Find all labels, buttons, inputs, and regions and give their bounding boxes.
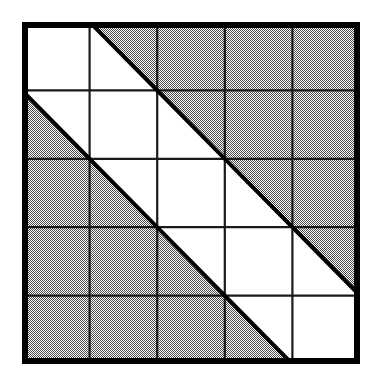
banded-grid-figure: Banded matrix diagram <box>0 0 374 382</box>
figure-root: A 5 by 5 square grid enclosed in a thick… <box>0 0 374 382</box>
plot-area <box>22 22 360 364</box>
